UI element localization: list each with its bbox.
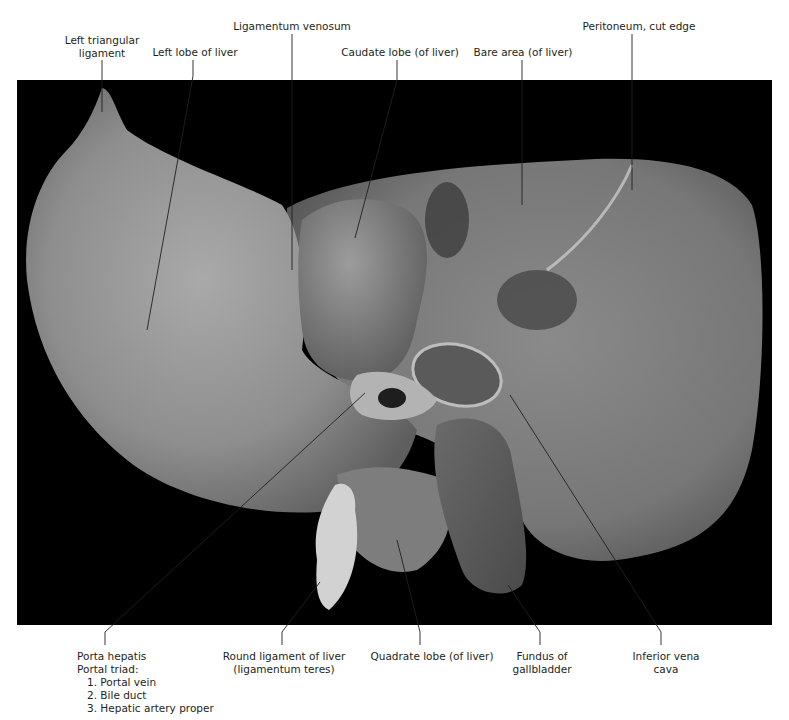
label-bare-area: Bare area (of liver) <box>474 46 573 59</box>
label-porta-hepatis: Porta hepatis Portal triad: 1. Portal ve… <box>77 650 214 715</box>
label-caudate-lobe: Caudate lobe (of liver) <box>341 46 459 59</box>
label-ligamentum-venosum: Ligamentum venosum <box>233 20 351 33</box>
liver-photograph <box>17 80 772 625</box>
portal-triad-item-2: 2. Bile duct <box>77 689 214 702</box>
label-quadrate-lobe: Quadrate lobe (of liver) <box>371 650 494 663</box>
label-inferior-vena-cava: Inferior vena cava <box>633 650 700 676</box>
label-left-triangular-ligament: Left triangular ligament <box>65 34 140 60</box>
label-peritoneum-cut-edge: Peritoneum, cut edge <box>583 20 696 33</box>
portal-triad-item-1: 1. Portal vein <box>77 676 214 689</box>
liver-illustration <box>17 80 772 625</box>
label-left-lobe-of-liver: Left lobe of liver <box>152 46 237 59</box>
portal-vein-lumen <box>378 388 406 408</box>
label-fundus-of-gallbladder: Fundus of gallbladder <box>512 650 571 676</box>
portal-triad-item-3: 3. Hepatic artery proper <box>77 702 214 715</box>
label-round-ligament: Round ligament of liver (ligamentum tere… <box>223 650 346 676</box>
